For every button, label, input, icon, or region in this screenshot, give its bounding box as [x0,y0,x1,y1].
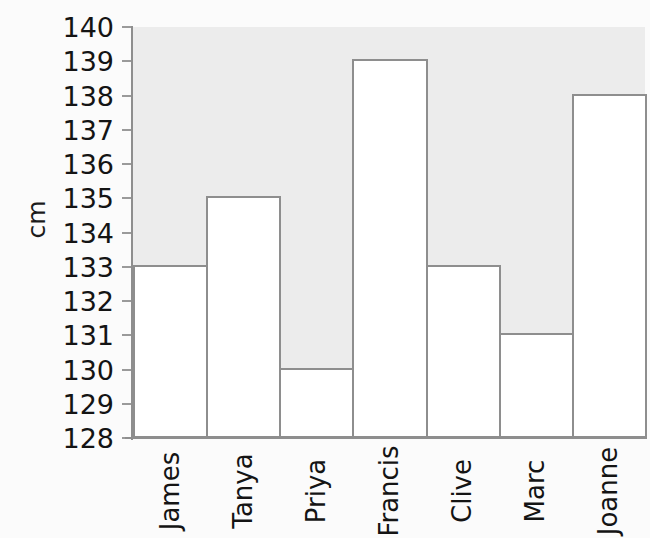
y-axis-tick-label: 130 [54,356,114,383]
y-axis-tick-label: 134 [54,219,114,246]
x-axis-label-slot: Marc [499,444,572,538]
x-axis-tick-label: Marc [522,460,548,523]
y-axis-tick-label: 136 [54,151,114,178]
bar-chart: cm 1281291301311321331341351361371381391… [0,0,650,538]
x-axis-tick-label: Priya [303,459,329,523]
y-axis-tick-label: 129 [54,390,114,417]
y-axis-tick-label: 133 [54,253,114,280]
y-axis-tick-label: 132 [54,288,114,315]
y-axis-tick-label: 139 [54,48,114,75]
x-axis-label-slot: Francis [352,444,425,538]
x-axis-tick-label: James [157,452,183,530]
x-axis-label-slot: Priya [279,444,352,538]
bar[interactable] [426,265,501,438]
bar[interactable] [572,94,647,439]
x-axis-label-slot: Tanya [206,444,279,538]
bar[interactable] [133,265,208,438]
x-axis-label-slot: James [133,444,206,538]
bar[interactable] [279,368,354,439]
y-axis-title: cm [22,200,51,240]
x-axis-tick-label: Francis [376,445,402,536]
x-axis-label-slot: Joanne [572,444,645,538]
bars-container [133,27,645,438]
x-axis-tick-label: Tanya [230,453,256,528]
y-axis-tick-label: 137 [54,116,114,143]
bar[interactable] [352,59,427,438]
y-axis-tick-label: 138 [54,82,114,109]
y-axis-tick-labels: 128129130131132133134135136137138139140 [54,0,114,538]
y-axis-tick-label: 131 [54,322,114,349]
bar[interactable] [206,196,281,438]
x-axis-label-slot: Clive [426,444,499,538]
y-axis-tick-label: 140 [54,14,114,41]
y-axis-tick-label: 128 [54,425,114,452]
bar[interactable] [499,333,574,438]
x-axis-tick-label: Joanne [595,447,621,535]
y-axis-tick-label: 135 [54,185,114,212]
x-axis-labels: JamesTanyaPriyaFrancisCliveMarcJoanne [133,444,645,538]
x-axis-tick-label: Clive [449,459,475,523]
